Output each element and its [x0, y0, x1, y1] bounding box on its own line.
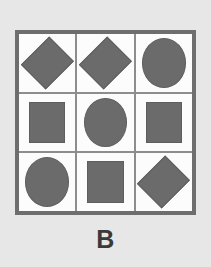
shape-matrix-panel[interactable]	[15, 30, 196, 215]
grid-cell-r2c1[interactable]	[19, 94, 75, 152]
circle-icon	[84, 98, 128, 148]
grid-cell-r3c1[interactable]	[19, 153, 75, 211]
shape-grid	[19, 34, 192, 211]
grid-cell-r3c2[interactable]	[77, 153, 133, 211]
grid-cell-r3c3[interactable]	[136, 153, 192, 211]
figure-option-label: B	[0, 224, 211, 254]
square-icon	[87, 161, 123, 203]
grid-cell-r1c2[interactable]	[77, 34, 133, 92]
grid-cell-r1c1[interactable]	[19, 34, 75, 92]
circle-icon	[142, 38, 186, 88]
grid-cell-r1c3[interactable]	[136, 34, 192, 92]
square-icon	[146, 102, 182, 144]
square-icon	[29, 102, 65, 144]
circle-icon	[25, 157, 69, 207]
grid-cell-r2c3[interactable]	[136, 94, 192, 152]
diamond-icon	[21, 36, 74, 89]
diamond-icon	[79, 36, 132, 89]
grid-cell-r2c2[interactable]	[77, 94, 133, 152]
diamond-icon	[137, 156, 190, 209]
